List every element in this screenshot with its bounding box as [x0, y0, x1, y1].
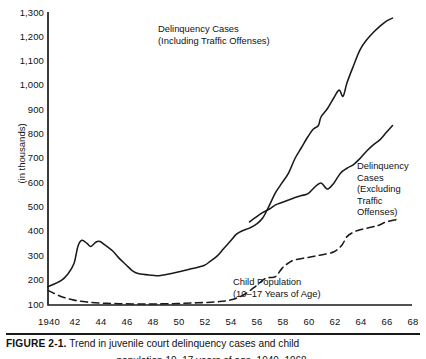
- y-tick-label: 600: [4, 177, 44, 188]
- figure-container: (in thousands) 1,300 1,200 1,100 1,000 9…: [0, 0, 426, 359]
- x-tick-label: 52: [192, 316, 218, 327]
- y-tick-label: 1,000: [4, 79, 44, 90]
- y-tick-label: 100: [4, 299, 44, 310]
- x-tick-label: 1940: [34, 316, 64, 327]
- annotation-line: Child Population: [233, 276, 321, 288]
- annotation-line: Delinquency: [357, 160, 409, 172]
- data-series-group: [48, 18, 396, 304]
- x-tick-label: 66: [374, 316, 400, 327]
- y-tick-label: 400: [4, 225, 44, 236]
- annotation-line: (10–17 Years of Age): [233, 288, 321, 300]
- annotation-line: Cases: [357, 172, 409, 184]
- y-tick-label: 1,300: [4, 7, 44, 18]
- x-tick-label: 58: [270, 316, 296, 327]
- x-tick-label: 56: [244, 316, 270, 327]
- y-tick-label: 1,200: [4, 31, 44, 42]
- x-tick-label: 54: [218, 316, 244, 327]
- y-tick-label: 500: [4, 201, 44, 212]
- x-tick-label: 60: [296, 316, 322, 327]
- x-tick-label: 44: [88, 316, 114, 327]
- annotation-line: Offenses): [357, 206, 409, 218]
- y-tick-label: 800: [4, 128, 44, 139]
- figure-caption: FIGURE 2-1. Trend in juvenile court deli…: [6, 338, 426, 351]
- caption-divider-rule: [6, 333, 420, 335]
- series-annotation-including-traffic: Delinquency Cases (Including Traffic Off…: [158, 23, 270, 46]
- annotation-line: (Including Traffic Offenses): [158, 35, 270, 47]
- x-tick-label: 62: [322, 316, 348, 327]
- x-tick-label: 68: [400, 316, 426, 327]
- x-tick-label: 64: [348, 316, 374, 327]
- y-tick-label: 700: [4, 152, 44, 163]
- y-tick-label: 1,100: [4, 55, 44, 66]
- figure-caption-text: Trend in juvenile court delinquency case…: [67, 338, 300, 349]
- chart-plot-area: (in thousands) 1,300 1,200 1,100 1,000 9…: [0, 0, 426, 330]
- annotation-line: Traffic: [357, 195, 409, 207]
- y-tick-label: 900: [4, 104, 44, 115]
- series-annotation-child-population: Child Population (10–17 Years of Age): [233, 276, 321, 299]
- figure-caption-continued: population 10–17 years of age, 1940–1968…: [0, 355, 426, 359]
- x-tick-label: 42: [62, 316, 88, 327]
- annotation-line: Delinquency Cases: [158, 23, 270, 35]
- y-tick-label: 300: [4, 250, 44, 261]
- x-tick-label: 48: [140, 316, 166, 327]
- series-line-3: [48, 220, 396, 305]
- x-tick-label: 46: [114, 316, 140, 327]
- y-tick-label: 200: [4, 274, 44, 285]
- x-tick-label: 50: [166, 316, 192, 327]
- annotation-line: (Excluding: [357, 183, 409, 195]
- figure-caption-label: FIGURE 2-1.: [6, 338, 67, 349]
- series-annotation-excluding-traffic: Delinquency Cases (Excluding Traffic Off…: [357, 160, 409, 218]
